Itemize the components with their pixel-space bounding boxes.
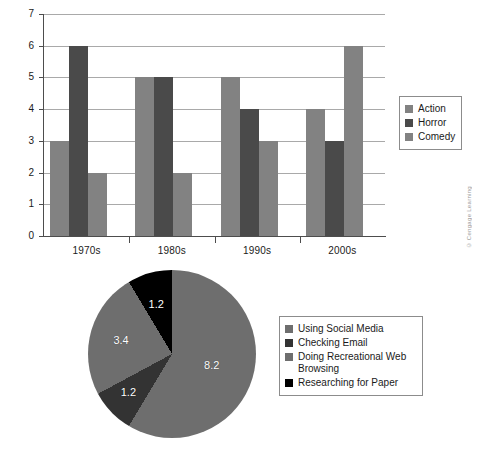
y-axis-tick-mark bbox=[39, 236, 44, 237]
pie-legend-item-checking-email: Checking Email bbox=[285, 337, 416, 349]
pie-chart-figure: 8.21.23.41.2 Using Social MediaChecking … bbox=[0, 262, 486, 462]
pie-legend-item-label: Using Social Media bbox=[298, 323, 384, 335]
pie-legend-swatch-icon bbox=[285, 339, 293, 347]
y-axis-tick-mark bbox=[39, 77, 44, 78]
pie-legend-item-label: Researching for Paper bbox=[298, 377, 398, 389]
gridline bbox=[44, 46, 385, 47]
gridline bbox=[44, 77, 385, 78]
pie-legend-item-label: Checking Email bbox=[298, 337, 367, 349]
y-axis-tick-mark bbox=[39, 14, 44, 15]
y-axis-tick-label: 4 bbox=[18, 104, 34, 114]
pie-legend-item-researching-for-paper: Researching for Paper bbox=[285, 377, 416, 389]
pie-graphic bbox=[88, 270, 256, 438]
bar-chart-figure: 01234567 1970s1980s1990s2000s ActionHorr… bbox=[0, 0, 486, 262]
legend-item-horror: Horror bbox=[405, 117, 455, 129]
pie-legend-item-using-social-media: Using Social Media bbox=[285, 323, 416, 335]
y-axis-tick-mark bbox=[39, 204, 44, 205]
pie-legend-item-doing-recreational-web-browsing: Doing Recreational Web Browsing bbox=[285, 351, 416, 375]
y-axis-tick-label: 0 bbox=[18, 231, 34, 241]
bar-action-2000s bbox=[306, 109, 325, 236]
pie-slice-value-checking-email: 1.2 bbox=[121, 387, 136, 398]
x-axis-tick-label-1980s: 1980s bbox=[142, 245, 202, 256]
y-axis-tick-mark bbox=[39, 141, 44, 142]
x-axis-tick-mark bbox=[300, 237, 301, 243]
bar-horror-2000s bbox=[325, 141, 344, 236]
pie-slice-value-researching-for-paper: 1.2 bbox=[149, 299, 164, 310]
y-axis-tick-label: 2 bbox=[18, 168, 34, 178]
bar-comedy-1980s bbox=[173, 173, 192, 236]
bar-plot-area bbox=[44, 14, 385, 236]
pie-slice-value-using-social-media: 8.2 bbox=[204, 360, 219, 371]
pie-chart-legend: Using Social MediaChecking EmailDoing Re… bbox=[279, 316, 423, 396]
legend-swatch-icon bbox=[405, 105, 413, 113]
y-axis-tick-mark bbox=[39, 173, 44, 174]
legend-item-label: Action bbox=[418, 103, 446, 115]
figure-page: 01234567 1970s1980s1990s2000s ActionHorr… bbox=[0, 0, 486, 462]
x-axis-tick-label-1970s: 1970s bbox=[57, 245, 117, 256]
y-axis-tick-label: 1 bbox=[18, 199, 34, 209]
bar-horror-1970s bbox=[69, 46, 88, 236]
legend-item-label: Comedy bbox=[418, 131, 455, 143]
bar-action-1980s bbox=[135, 77, 154, 236]
bar-action-1990s bbox=[221, 77, 240, 236]
x-axis-tick-mark bbox=[215, 237, 216, 243]
bar-action-1970s bbox=[50, 141, 69, 236]
y-axis-tick-label: 3 bbox=[18, 136, 34, 146]
y-axis-tick-label: 6 bbox=[18, 41, 34, 51]
y-axis-tick-mark bbox=[39, 46, 44, 47]
bar-chart-credit: © Cengage Learning bbox=[466, 186, 473, 248]
y-axis-tick-label: 5 bbox=[18, 72, 34, 82]
x-axis-tick-mark bbox=[129, 237, 130, 243]
gridline bbox=[44, 109, 385, 110]
pie-slice-value-doing-recreational-web-browsing: 3.4 bbox=[113, 335, 128, 346]
gridline bbox=[44, 14, 385, 15]
pie-legend-swatch-icon bbox=[285, 353, 293, 361]
legend-item-label: Horror bbox=[418, 117, 446, 129]
pie-legend-swatch-icon bbox=[285, 325, 293, 333]
x-axis-tick-label-2000s: 2000s bbox=[312, 245, 372, 256]
legend-item-comedy: Comedy bbox=[405, 131, 455, 143]
legend-swatch-icon bbox=[405, 119, 413, 127]
bar-comedy-1990s bbox=[259, 141, 278, 236]
x-axis-tick-label-1990s: 1990s bbox=[227, 245, 287, 256]
y-axis-tick-mark bbox=[39, 109, 44, 110]
legend-swatch-icon bbox=[405, 133, 413, 141]
pie-legend-item-label: Doing Recreational Web Browsing bbox=[298, 351, 416, 375]
bar-horror-1980s bbox=[154, 77, 173, 236]
legend-item-action: Action bbox=[405, 103, 455, 115]
bar-horror-1990s bbox=[240, 109, 259, 236]
y-axis-tick-label: 7 bbox=[18, 9, 34, 19]
bar-comedy-1970s bbox=[88, 173, 107, 236]
pie-legend-swatch-icon bbox=[285, 379, 293, 387]
bar-comedy-2000s bbox=[344, 46, 363, 236]
bar-chart-legend: ActionHorrorComedy bbox=[399, 96, 462, 150]
